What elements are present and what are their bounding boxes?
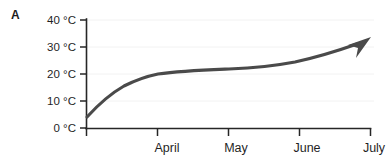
y-axis-tick-labels: 40 °C 30 °C 20 °C 10 °C 0 °C — [47, 14, 76, 134]
y-axis-tickmarks — [80, 20, 86, 128]
xtick-label-may: May — [224, 141, 248, 155]
ytick-label-30: 30 °C — [47, 41, 76, 53]
xtick-label-april: April — [154, 141, 179, 155]
ytick-label-0: 0 °C — [54, 122, 77, 134]
temperature-line-chart: 40 °C 30 °C 20 °C 10 °C 0 °C April May J… — [0, 0, 388, 166]
ytick-label-20: 20 °C — [47, 68, 76, 80]
x-axis-tick-labels: April May June July — [154, 141, 385, 155]
temperature-trend-curve — [87, 44, 357, 117]
ytick-label-10: 10 °C — [47, 95, 76, 107]
xtick-label-june: June — [293, 141, 320, 155]
ytick-label-40: 40 °C — [47, 14, 76, 26]
chart-container: A 40 °C 30 °C 20 °C 10 °C 0 °C — [0, 0, 388, 166]
gridlines — [86, 20, 374, 101]
xtick-label-july: July — [363, 141, 386, 155]
